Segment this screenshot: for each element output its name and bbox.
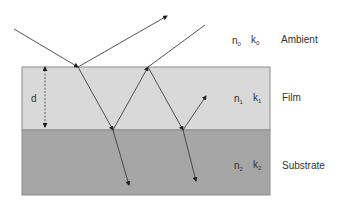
substrate-k-symbol: k2 [253,160,261,171]
ambient-k-symbol: k0 [251,35,259,46]
substrate-layer [22,130,270,195]
thin-film-diagram: d n0 k0 Ambient n1 k1 Film n2 k2 Substra… [0,0,341,203]
thickness-label: d [31,94,37,104]
ray-reflected-1 [78,16,167,67]
ambient-n-symbol: n0 [232,36,241,47]
film-label: Film [282,93,301,103]
ambient-label: Ambient [281,35,318,45]
ray-incident [14,29,78,67]
substrate-n-symbol: n2 [234,161,243,172]
film-k-symbol: k1 [253,93,261,104]
film-n-symbol: n1 [234,94,243,105]
ray-reflected-2 [148,25,205,67]
substrate-label: Substrate [282,161,325,171]
film-layer [22,67,270,130]
